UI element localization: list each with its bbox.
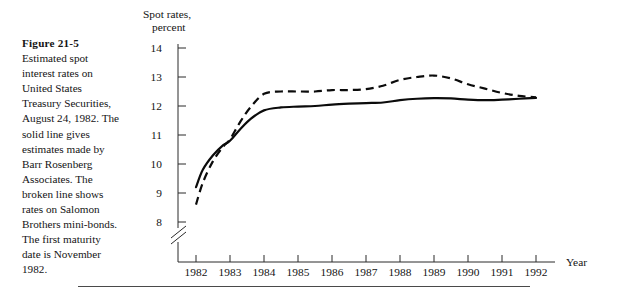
x-tick-label: 1987 [355,266,378,278]
x-tick-label: 1989 [423,266,446,278]
y-tick-label: 9 [156,187,162,199]
x-tick-marks [196,255,536,262]
x-tick-label: 1982 [185,266,208,278]
x-tick-label: 1985 [287,266,310,278]
chart-svg: Spot rates, percent [0,0,644,304]
y-axis-title-line1: Spot rates, [143,8,191,20]
x-tick-label: 1986 [321,266,344,278]
x-tick-labels: 1982 1983 1984 1985 1986 1987 1988 1989 … [185,266,548,278]
y-tick-label: 10 [151,158,163,170]
x-tick-label: 1984 [253,266,276,278]
x-tick-label: 1992 [525,266,548,278]
x-tick-label: 1990 [457,266,480,278]
y-tick-label: 12 [151,100,163,112]
y-tick-label: 8 [156,216,162,228]
x-axis-title: Year [566,256,587,268]
y-tick-label: 13 [151,71,163,83]
figure-container: Figure 21-5 Estimated spot interest rate… [0,0,644,304]
y-tick-marks [178,48,186,222]
series-line-dashed [196,76,536,205]
y-tick-labels: 14 13 12 11 10 9 8 [151,42,163,228]
page-divider-rule [78,286,530,287]
y-axis-title-line2: percent [152,21,186,33]
y-tick-label: 14 [151,42,163,54]
x-tick-label: 1991 [491,266,514,278]
chart-plot-area: Spot rates, percent [0,0,644,304]
x-tick-label: 1983 [219,266,242,278]
x-tick-label: 1988 [389,266,412,278]
y-tick-label: 11 [151,129,162,141]
